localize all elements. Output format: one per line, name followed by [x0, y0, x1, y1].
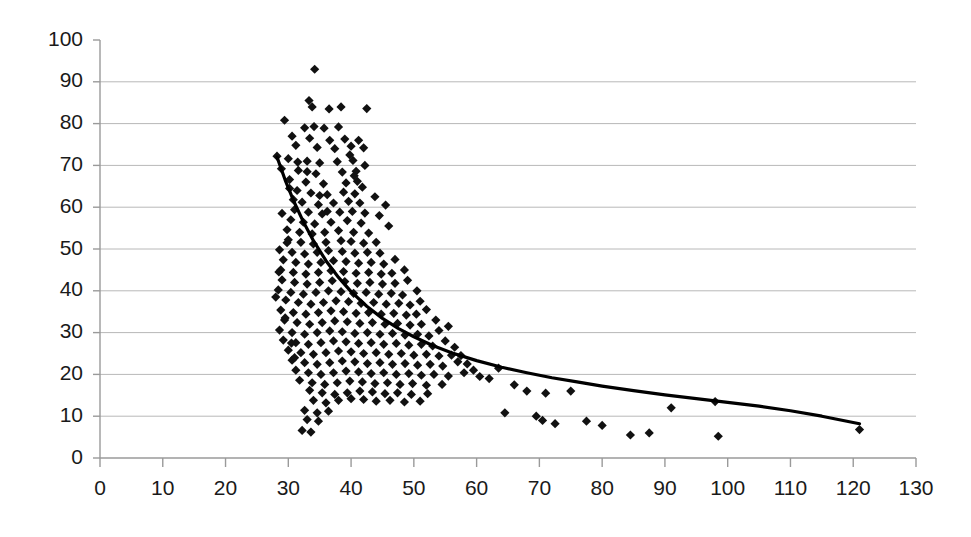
- data-point: [290, 278, 299, 287]
- data-point: [314, 268, 323, 277]
- data-point: [350, 189, 359, 198]
- data-point: [359, 395, 368, 404]
- data-point: [383, 378, 392, 387]
- data-point: [360, 208, 369, 217]
- data-point: [397, 349, 406, 358]
- data-point: [329, 336, 338, 345]
- data-point: [855, 425, 864, 434]
- data-point: [289, 268, 298, 277]
- data-point: [402, 310, 411, 319]
- data-point: [469, 366, 478, 375]
- x-tick-label: 20: [214, 476, 237, 499]
- data-point: [311, 169, 320, 178]
- data-point: [309, 350, 318, 359]
- data-point: [390, 279, 399, 288]
- data-point: [388, 329, 397, 338]
- data-point: [422, 381, 431, 390]
- data-point: [341, 178, 350, 187]
- data-point: [393, 388, 402, 397]
- data-point: [309, 396, 318, 405]
- data-point: [582, 417, 591, 426]
- data-point: [305, 386, 314, 395]
- x-tick-label: 60: [465, 476, 488, 499]
- data-point: [363, 328, 372, 337]
- data-point: [313, 360, 322, 369]
- data-point: [714, 432, 723, 441]
- scatter-chart: 0102030405060708090100 01020304050607080…: [0, 0, 971, 537]
- data-point: [422, 350, 431, 359]
- data-point: [354, 339, 363, 348]
- data-point: [304, 340, 313, 349]
- data-point: [382, 300, 391, 309]
- data-point: [359, 143, 368, 152]
- data-point: [344, 297, 353, 306]
- data-point: [314, 200, 323, 209]
- data-point: [339, 188, 348, 197]
- data-point: [324, 246, 333, 255]
- data-point: [384, 221, 393, 230]
- data-point: [355, 387, 364, 396]
- data-point: [310, 219, 319, 228]
- data-point: [303, 280, 312, 289]
- data-point: [400, 265, 409, 274]
- data-point: [357, 218, 366, 227]
- data-point: [339, 307, 348, 316]
- data-point: [441, 336, 450, 345]
- x-tick-label: 40: [339, 476, 362, 499]
- data-point: [296, 348, 305, 357]
- y-tick-label: 0: [71, 445, 83, 468]
- data-point: [395, 380, 404, 389]
- x-tick-label: 80: [590, 476, 613, 499]
- data-point: [344, 197, 353, 206]
- data-point: [485, 374, 494, 383]
- data-point: [343, 216, 352, 225]
- data-point: [389, 309, 398, 318]
- data-point: [319, 179, 328, 188]
- data-point: [315, 191, 324, 200]
- data-point: [291, 366, 300, 375]
- data-point: [325, 104, 334, 113]
- data-point: [362, 288, 371, 297]
- data-point: [345, 376, 354, 385]
- data-point: [408, 379, 417, 388]
- data-point: [308, 378, 317, 387]
- data-point: [320, 228, 329, 237]
- data-point: [319, 124, 328, 133]
- data-point: [318, 318, 327, 327]
- data-point: [362, 104, 371, 113]
- data-point: [326, 218, 335, 227]
- data-point: [301, 310, 310, 319]
- data-point: [286, 288, 295, 297]
- data-point: [336, 236, 345, 245]
- data-point: [339, 267, 348, 276]
- data-point: [379, 259, 388, 268]
- data-point: [429, 370, 438, 379]
- data-point: [353, 279, 362, 288]
- data-point: [372, 238, 381, 247]
- data-point: [350, 357, 359, 366]
- data-point: [275, 325, 284, 334]
- data-point: [275, 245, 284, 254]
- data-point: [667, 403, 676, 412]
- x-tick-label: 70: [528, 476, 551, 499]
- data-point: [300, 123, 309, 132]
- data-point: [370, 379, 379, 388]
- data-point: [354, 259, 363, 268]
- data-point: [310, 65, 319, 74]
- data-point: [359, 239, 368, 248]
- data-point: [300, 406, 309, 415]
- data-point: [392, 339, 401, 348]
- data-point: [316, 370, 325, 379]
- data-point: [368, 387, 377, 396]
- y-tick-label: 10: [60, 403, 83, 426]
- data-point: [416, 397, 425, 406]
- data-point: [333, 378, 342, 387]
- data-point: [314, 308, 323, 317]
- data-point: [404, 369, 413, 378]
- data-point: [463, 359, 472, 368]
- data-point: [364, 268, 373, 277]
- data-point: [379, 368, 388, 377]
- data-point: [326, 306, 335, 315]
- data-point: [348, 207, 357, 216]
- data-point: [394, 299, 403, 308]
